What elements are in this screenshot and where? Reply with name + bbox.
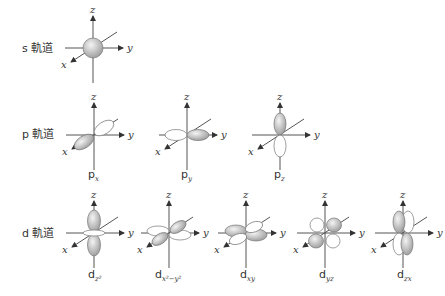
orbital-dzx: z y x dzx bbox=[371, 189, 443, 283]
svg-text:py: py bbox=[181, 168, 193, 183]
svg-text:dzx: dzx bbox=[397, 268, 412, 283]
orbital-s: z y x bbox=[61, 4, 133, 83]
orbital-dx2y2: z y x dx²−y² bbox=[137, 189, 209, 283]
svg-text:z: z bbox=[165, 189, 172, 200]
svg-text:y: y bbox=[279, 227, 286, 238]
svg-text:y: y bbox=[127, 227, 134, 238]
svg-text:y: y bbox=[220, 129, 227, 140]
svg-text:dxy: dxy bbox=[240, 268, 256, 283]
svg-text:x: x bbox=[137, 244, 143, 255]
svg-text:x: x bbox=[62, 244, 68, 255]
row-label-s: s 軌道 bbox=[22, 41, 53, 55]
svg-text:y: y bbox=[202, 227, 209, 238]
row-label-p: p 軌道 bbox=[22, 127, 54, 141]
svg-text:z: z bbox=[90, 91, 97, 102]
svg-text:z: z bbox=[276, 91, 283, 102]
svg-text:dyz: dyz bbox=[319, 268, 334, 283]
row-label-d: d 軌道 bbox=[22, 226, 54, 240]
orbital-dyz: z y x dyz bbox=[293, 189, 365, 283]
orbital-dxy: z y x dxy bbox=[214, 189, 286, 283]
svg-text:pz: pz bbox=[274, 168, 285, 183]
svg-text:px: px bbox=[88, 168, 99, 183]
svg-text:z: z bbox=[399, 189, 406, 200]
orbital-pz: z y x pz bbox=[248, 91, 320, 183]
svg-text:dz²: dz² bbox=[88, 268, 102, 283]
svg-text:z: z bbox=[242, 189, 249, 200]
svg-text:z: z bbox=[321, 189, 328, 200]
svg-text:x: x bbox=[155, 146, 161, 157]
orbital-py: z y x py bbox=[155, 91, 227, 183]
svg-text:x: x bbox=[61, 59, 67, 70]
svg-text:y: y bbox=[126, 42, 133, 53]
svg-text:x: x bbox=[371, 244, 377, 255]
svg-text:y: y bbox=[358, 227, 365, 238]
svg-text:z: z bbox=[183, 91, 190, 102]
svg-text:x: x bbox=[248, 146, 254, 157]
svg-text:dx²−y²: dx²−y² bbox=[155, 268, 182, 283]
svg-text:y: y bbox=[313, 129, 320, 140]
svg-text:z: z bbox=[89, 4, 96, 15]
orbital-px: z y x px bbox=[62, 91, 134, 183]
svg-text:y: y bbox=[436, 227, 443, 238]
svg-text:x: x bbox=[214, 244, 220, 255]
orbital-dz2: z y x dz² bbox=[62, 189, 134, 283]
svg-text:y: y bbox=[127, 129, 134, 140]
orbital-diagram: s 軌道 p 軌道 d 軌道 z y x z y x px z y x py z… bbox=[0, 0, 445, 296]
svg-text:z: z bbox=[90, 189, 97, 200]
svg-text:x: x bbox=[62, 146, 68, 157]
svg-text:x: x bbox=[293, 244, 299, 255]
